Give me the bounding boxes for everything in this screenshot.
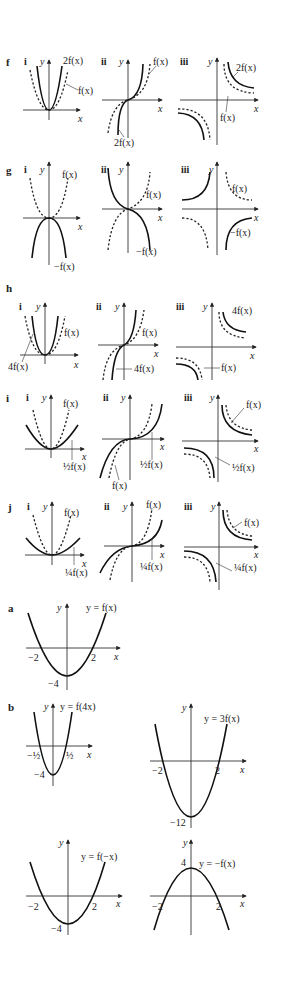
section-letter-a: a <box>8 603 14 614</box>
x-axis-label: x <box>254 213 258 223</box>
curve-label: ½f(x) <box>232 463 255 473</box>
part-label-ii: ii <box>104 502 110 512</box>
part-label-i: i <box>27 502 30 512</box>
part-label-iii: iii <box>184 393 192 403</box>
graph-g-iii <box>182 162 258 255</box>
y-axis-label: y <box>210 393 214 403</box>
curve-label: ½f(x) <box>63 462 86 472</box>
x-axis-label: x <box>254 550 258 560</box>
curve-label: ¼f(x) <box>140 562 163 572</box>
x-axis-label: x <box>158 104 162 114</box>
section-letter-b: b <box>8 702 14 713</box>
curve-label: f(x) <box>146 190 161 200</box>
section-letter-h: h <box>6 283 12 294</box>
equation-label: y = f(−x) <box>81 852 117 862</box>
x-axis-label: x <box>158 213 162 223</box>
section-letter-i: i <box>6 393 9 404</box>
x-axis-label: x <box>78 222 82 232</box>
y-axis-label: y <box>119 57 123 67</box>
curve-label: f(x) <box>62 170 77 180</box>
x-axis-label: x <box>114 652 118 662</box>
part-label-iii: iii <box>184 502 192 512</box>
curve-label: f(x) <box>221 363 236 373</box>
y-axis-label: y <box>121 393 125 403</box>
y-axis-label: y <box>203 302 207 312</box>
curve-label: f(x) <box>220 113 235 123</box>
graph-j-iii <box>184 502 258 590</box>
curve-label: −f(x) <box>54 262 75 272</box>
equation-label: y = 3f(x) <box>204 714 240 724</box>
tick-label: 2 <box>216 902 221 912</box>
curve-label: −f(x) <box>230 228 251 238</box>
part-label-ii: ii <box>96 302 102 312</box>
tick-label: −12 <box>170 818 186 828</box>
tick-label: −2 <box>28 653 39 663</box>
graph-b-negf <box>150 840 246 935</box>
graph-f-ii <box>102 60 162 138</box>
x-axis-label: x <box>87 750 91 760</box>
curve-label: ½f(x) <box>140 460 163 470</box>
tick-label: 2 <box>215 766 220 776</box>
y-axis-label: y <box>42 393 46 403</box>
y-axis-label: y <box>209 165 213 175</box>
x-axis-label: x <box>160 442 164 452</box>
part-label-iii: iii <box>176 302 184 312</box>
x-axis-label: x <box>160 550 164 560</box>
y-axis-label: y <box>59 838 63 848</box>
x-axis-label: x <box>74 360 78 370</box>
part-label-ii: ii <box>101 165 107 175</box>
curve-label: ¼f(x) <box>65 568 88 578</box>
y-axis-label: y <box>115 302 119 312</box>
curve-label: −f(x) <box>136 247 157 257</box>
tick-label: −2 <box>28 902 39 912</box>
curve-label: f(x) <box>246 400 261 410</box>
y-axis-label: y <box>208 57 212 67</box>
curve-label: f(x) <box>232 184 247 194</box>
x-axis-label: x <box>250 351 254 361</box>
tick-label: −½ <box>27 751 40 761</box>
x-axis-label: x <box>154 349 158 359</box>
curve-label: f(x) <box>153 57 168 67</box>
part-label-i: i <box>19 302 22 312</box>
part-label-i: i <box>26 393 29 403</box>
tick-label: −4 <box>51 924 62 934</box>
curve-label: ¼f(x) <box>234 563 257 573</box>
x-axis-label: x <box>240 765 244 775</box>
y-axis-label: y <box>211 502 215 512</box>
curve-label: f(x) <box>244 518 259 528</box>
equation-label: y = f(x) <box>86 603 117 613</box>
y-axis-label: y <box>40 57 44 67</box>
part-label-ii: ii <box>101 57 107 67</box>
curve-label: 4f(x) <box>232 306 252 316</box>
curve-label: 4f(x) <box>8 362 28 372</box>
y-axis-label: y <box>123 502 127 512</box>
equation-label: y = f(4x) <box>60 702 96 712</box>
curve-label: 2f(x) <box>236 63 256 73</box>
tick-label: −4 <box>48 679 59 689</box>
tick-label: 2 <box>91 653 96 663</box>
x-axis-label: x <box>254 444 258 454</box>
tick-label: ½ <box>66 751 74 761</box>
y-axis-label: y <box>36 302 40 312</box>
part-label-iii: iii <box>180 57 188 67</box>
section-letter-j: j <box>8 502 12 513</box>
graph-g-ii <box>102 162 162 253</box>
x-axis-label: x <box>78 114 82 124</box>
tick-label: 2 <box>92 902 97 912</box>
y-axis-label: y <box>182 703 186 713</box>
y-axis-label: y <box>40 165 44 175</box>
part-label-i: i <box>24 165 27 175</box>
y-axis-label: y <box>57 603 61 613</box>
x-axis-label: x <box>240 899 244 909</box>
curve-label: 2f(x) <box>63 56 83 66</box>
equation-label: y = −f(x) <box>199 859 235 869</box>
curve-label: f(x) <box>78 86 93 96</box>
tick-label: −4 <box>34 770 45 780</box>
y-axis-label: y <box>119 165 123 175</box>
curve-label: f(x) <box>142 328 157 338</box>
tick-label: −2 <box>152 902 163 912</box>
curve-label: f(x) <box>64 508 79 518</box>
part-label-iii: iii <box>181 165 189 175</box>
graph-f-i <box>23 60 80 120</box>
curve-label: 4f(x) <box>134 364 154 374</box>
